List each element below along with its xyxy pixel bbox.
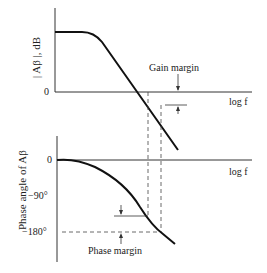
phase-tick-0: 0 xyxy=(47,154,52,165)
phase-y-label: Phase angle of Aβ xyxy=(16,150,28,230)
phase-x-label: log f xyxy=(229,166,248,177)
phase-curve xyxy=(57,160,175,244)
phase-margin-label: Phase margin xyxy=(88,245,142,256)
gain-curve xyxy=(55,32,178,150)
gain-y-label: | Aβ |, dB xyxy=(30,37,42,78)
gain-zero-tick: 0 xyxy=(44,86,49,97)
phase-margin-arrow-up xyxy=(119,233,123,238)
gain-x-label: log f xyxy=(229,96,248,107)
gain-margin-arrow-up xyxy=(176,106,180,111)
phase-tick-90: −90° xyxy=(28,190,48,201)
gain-margin-label: Gain margin xyxy=(149,62,199,73)
phase-tick-180: −180° xyxy=(22,226,47,237)
phase-margin-arrow-down xyxy=(119,210,123,215)
